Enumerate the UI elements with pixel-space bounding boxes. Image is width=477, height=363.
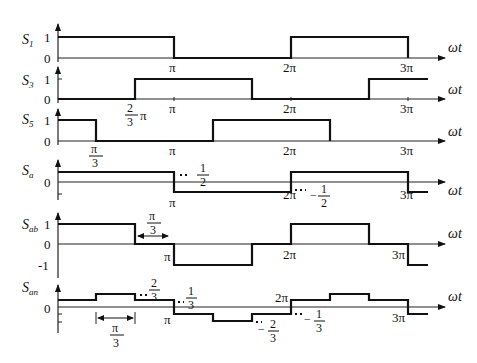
panel-s5: S5 1 0 π 2π 3π ωt π 3 (22, 109, 463, 170)
svg-text:3: 3 (150, 223, 156, 237)
svg-text:2: 2 (151, 276, 157, 290)
y-tick-0: 0 (44, 51, 51, 66)
svg-text:2: 2 (270, 317, 276, 331)
panel-sab: Sab 1 0 -1 π 3 π 2π 3π ωt (22, 209, 463, 278)
svg-text:−: − (310, 188, 317, 202)
svg-text:2: 2 (127, 101, 133, 115)
annotation-neg-half: − 1 2 (310, 182, 330, 210)
x-tick-3pi: 3π (400, 60, 414, 75)
x-tick-pi: π (169, 195, 176, 210)
annotation-half: 1 2 (197, 161, 209, 189)
svg-text:π: π (140, 108, 147, 123)
annotation-two-thirds-pi: 2 3 π (125, 101, 147, 129)
axis-label-wt: ωt (448, 40, 463, 55)
svg-text:1: 1 (200, 161, 206, 175)
panel-san: San 0 2 3 1 3 − 2 3 − 1 (22, 276, 463, 350)
svg-text:3: 3 (127, 115, 133, 129)
signal-label-san: San (22, 280, 39, 297)
y-tick-1: 1 (44, 30, 51, 45)
panel-sa: Sa 0 1 2 − 1 2 π 2π 3π ωt (22, 160, 463, 210)
x-tick-2pi: 2π (283, 101, 297, 116)
x-tick-3pi: 3π (400, 101, 414, 116)
svg-text:1: 1 (188, 284, 194, 298)
x-tick-2pi: 2π (275, 290, 289, 305)
x-tick-2pi: 2π (283, 187, 297, 202)
y-tick-0: 0 (44, 301, 51, 316)
x-tick-3pi: 3π (400, 143, 414, 158)
signal-label-s3: S3 (22, 73, 34, 90)
y-tick-0: 0 (44, 237, 51, 252)
axis-label-wt: ωt (448, 289, 463, 304)
svg-text:π: π (91, 142, 97, 156)
y-tick-neg1: -1 (38, 258, 49, 273)
svg-text:π: π (149, 209, 155, 223)
waveform-diagram: S1 1 0 π 2π 3π ωt S3 1 0 π 2π 3π ωt 2 3 … (0, 0, 477, 363)
svg-text:3: 3 (316, 321, 322, 335)
y-tick-0: 0 (44, 92, 51, 107)
waveform-s3 (58, 79, 428, 99)
x-tick-2pi: 2π (283, 143, 297, 158)
y-tick-1: 1 (44, 113, 51, 128)
axis-label-wt: ωt (448, 226, 463, 241)
x-tick-pi: π (164, 312, 171, 327)
svg-text:3: 3 (188, 298, 194, 312)
svg-text:1: 1 (316, 307, 322, 321)
x-tick-3pi: 3π (392, 310, 406, 325)
annotation-neg-one-third: − 1 3 (304, 307, 325, 335)
svg-text:−: − (304, 312, 311, 326)
svg-text:2: 2 (321, 196, 327, 210)
y-tick-1: 1 (44, 72, 51, 87)
annotation-interval-pi-over-3: π 3 (147, 209, 161, 237)
svg-text:3: 3 (270, 331, 276, 345)
y-tick-1: 1 (44, 217, 51, 232)
x-tick-pi: π (169, 143, 176, 158)
svg-text:3: 3 (151, 290, 157, 304)
annotation-pi-over-3: π 3 (89, 142, 103, 170)
waveform-s5 (58, 120, 330, 141)
waveform-s1 (58, 37, 408, 58)
axis-label-wt: ωt (448, 124, 463, 139)
x-tick-3pi: 3π (400, 187, 414, 202)
svg-text:3: 3 (113, 336, 119, 350)
svg-text:−: − (258, 322, 265, 336)
annotation-neg-two-thirds: − 2 3 (258, 317, 279, 345)
signal-label-sa: Sa (22, 163, 34, 180)
x-tick-2pi: 2π (283, 247, 297, 262)
y-tick-0: 0 (44, 175, 51, 190)
svg-text:2: 2 (200, 175, 206, 189)
axis-label-wt: ωt (448, 82, 463, 97)
svg-text:π: π (112, 321, 118, 335)
signal-label-s1: S1 (22, 32, 34, 49)
annotation-interval-pi-over-3: π 3 (110, 321, 124, 350)
x-tick-3pi: 3π (392, 247, 406, 262)
panel-s1: S1 1 0 π 2π 3π ωt (22, 24, 463, 75)
x-tick-pi: π (169, 101, 176, 116)
signal-label-s5: S5 (22, 112, 34, 129)
y-tick-0: 0 (44, 134, 51, 149)
svg-text:1: 1 (321, 182, 327, 196)
axis-label-wt: ωt (448, 183, 463, 198)
svg-text:3: 3 (92, 156, 98, 170)
x-tick-2pi: 2π (283, 60, 297, 75)
x-tick-pi: π (169, 60, 176, 75)
signal-label-sab: Sab (22, 217, 39, 234)
x-tick-pi: π (164, 249, 171, 264)
annotation-one-third: 1 3 (186, 284, 197, 312)
